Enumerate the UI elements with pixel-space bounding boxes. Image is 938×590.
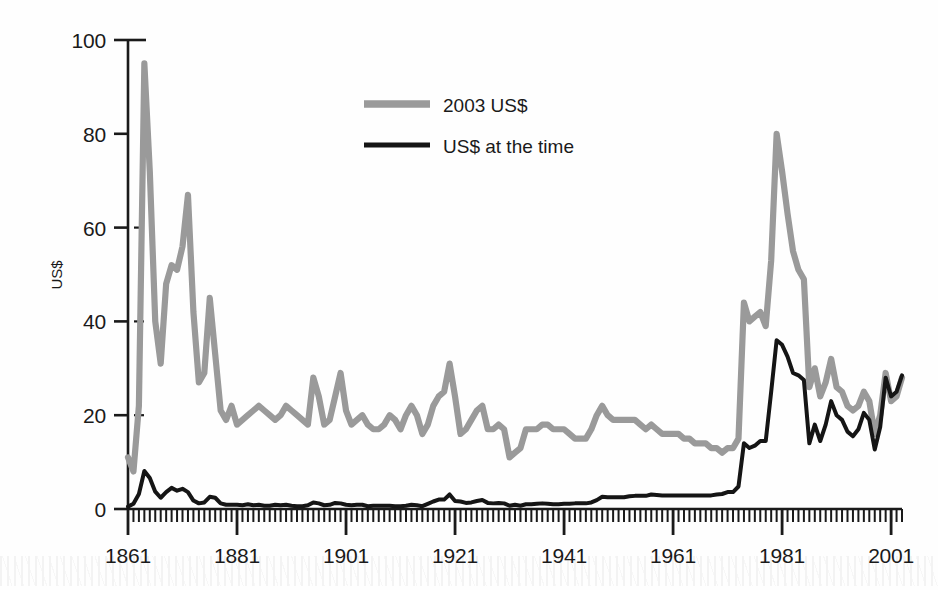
y-tick-label-100: 100: [72, 29, 106, 52]
x-tick-label-1941: 1941: [541, 544, 587, 567]
y-tick-label-40: 40: [83, 310, 106, 333]
x-tick-label-1981: 1981: [759, 544, 805, 567]
legend-label-2003-usd: 2003 US$: [443, 95, 528, 116]
x-tick-label-2001: 2001: [868, 544, 914, 567]
y-axis-title: US$: [48, 260, 65, 290]
x-tick-label-1901: 1901: [323, 544, 369, 567]
oil-price-chart: 020406080100 186118811901192119411961198…: [0, 0, 938, 590]
x-tick-label-1861: 1861: [105, 544, 151, 567]
y-tick-label-60: 60: [83, 217, 106, 240]
x-tick-label-1961: 1961: [650, 544, 696, 567]
y-tick-label-20: 20: [83, 404, 106, 427]
legend-label-nominal-usd: US$ at the time: [443, 136, 574, 157]
x-tick-label-1921: 1921: [432, 544, 478, 567]
chart-canvas: 020406080100 186118811901192119411961198…: [0, 0, 938, 590]
y-tick-label-80: 80: [83, 123, 106, 146]
y-tick-label-0: 0: [95, 498, 106, 521]
x-tick-label-1881: 1881: [214, 544, 260, 567]
